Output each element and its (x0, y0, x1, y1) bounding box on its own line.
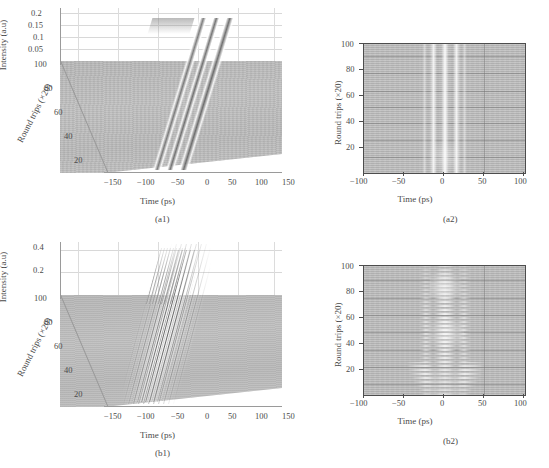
b1-caption: (b1) (155, 448, 170, 458)
a1-xtick-100: 100 (255, 177, 268, 187)
b2-caption: (b2) (443, 436, 458, 446)
a2-xlabel: Time (ps) (398, 194, 433, 204)
a1-ztick-1: 0.15 (28, 20, 43, 30)
b2-ytick-60: 60 (346, 312, 355, 322)
b2-ytick-100: 100 (341, 261, 354, 271)
a2-ytick-80: 80 (346, 64, 355, 74)
b2-density-map (363, 265, 526, 396)
b2-xtick--50: −50 (392, 398, 405, 408)
a1-ytick-100: 100 (34, 59, 47, 69)
b2-xtick-50: 50 (478, 398, 487, 408)
panel-a2: 100 80 60 40 20 −100 −50 0 50 100 Round … (285, 0, 549, 235)
b1-ytick-40: 40 (64, 365, 73, 375)
a2-ytick-60: 60 (346, 90, 355, 100)
panel-a1: 0.2 0.15 0.1 0.05 100 80 60 40 20 −150 −… (0, 0, 285, 235)
a2-ytick-20: 20 (346, 142, 355, 152)
b2-xtick-100: 100 (514, 398, 527, 408)
a1-xlabel: Time (ps) (140, 196, 175, 206)
a2-ytick-40: 40 (346, 116, 355, 126)
a2-ylabel: Round trips (×20) (333, 80, 343, 145)
b1-ytick-20: 20 (74, 389, 83, 399)
a1-plot-area (60, 8, 282, 173)
a1-ylabel: Round trips (×20) (15, 82, 53, 144)
a1-ztick-3: 0.05 (28, 44, 43, 54)
a1-zlabel: Intensity (a.u) (0, 20, 8, 70)
a2-caption: (a2) (443, 214, 458, 224)
b1-zlabel: Intensity (a.u) (0, 252, 8, 302)
b1-ytick-100: 100 (34, 293, 47, 303)
a1-xtick--50: −50 (171, 177, 184, 187)
a2-xtick--50: −50 (392, 176, 405, 186)
panel-b2: 100 80 60 40 20 −100 −50 0 50 100 Round … (285, 234, 549, 468)
a2-xtick-0: 0 (440, 176, 444, 186)
b1-ylabel: Round trips (×20) (15, 316, 53, 378)
b1-xtick--100: −100 (137, 411, 155, 421)
b1-ztick-0.4: 0.4 (33, 242, 44, 252)
a2-internal-vline (484, 44, 485, 173)
b1-xtick--150: −150 (104, 411, 122, 421)
a2-ytick-100: 100 (341, 39, 354, 49)
a1-ztick-0: 0.2 (31, 8, 42, 18)
b2-ytick-40: 40 (346, 338, 355, 348)
a2-xtick-100: 100 (514, 176, 527, 186)
a1-ytick-20: 20 (74, 155, 83, 165)
b1-xlabel: Time (ps) (140, 430, 175, 440)
b2-ylabel: Round trips (×20) (333, 302, 343, 367)
b2-xlabel: Time (ps) (398, 416, 433, 426)
b2-xtick-0: 0 (440, 398, 444, 408)
a2-xtick--100: −100 (350, 176, 368, 186)
a1-xtick-0: 0 (205, 177, 209, 187)
a1-ztick-2: 0.1 (33, 32, 44, 42)
a2-xtick-50: 50 (478, 176, 487, 186)
b1-xtick-50: 50 (228, 411, 237, 421)
b1-ztick-0.2: 0.2 (33, 265, 44, 275)
b1-xtick-100: 100 (255, 411, 268, 421)
b2-ytick-20: 20 (346, 364, 355, 374)
a1-xtick--100: −100 (137, 177, 155, 187)
b1-ytick-60: 60 (54, 341, 63, 351)
b2-xtick--100: −100 (350, 398, 368, 408)
b1-plot-area (60, 242, 282, 407)
a1-caption: (a1) (155, 214, 170, 224)
panel-b1: 0.4 0.2 100 80 60 40 20 −150 −100 −50 0 … (0, 234, 285, 468)
b2-ytick-80: 80 (346, 286, 355, 296)
a1-ytick-40: 40 (64, 131, 73, 141)
a1-ytick-60: 60 (54, 107, 63, 117)
b1-xtick-0: 0 (205, 411, 209, 421)
a2-density-map (363, 43, 526, 174)
b1-xtick--50: −50 (171, 411, 184, 421)
a1-xtick--150: −150 (104, 177, 122, 187)
a1-xtick-50: 50 (228, 177, 237, 187)
